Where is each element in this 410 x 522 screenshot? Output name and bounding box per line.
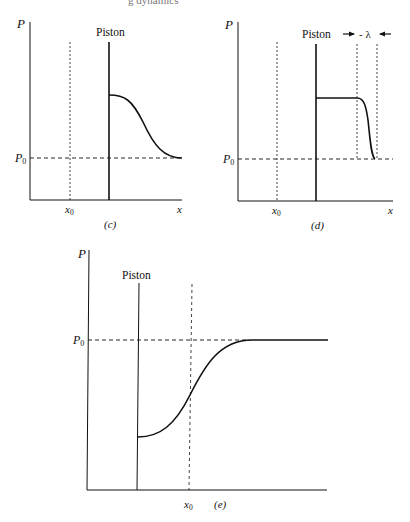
y-axis-label: P [16, 16, 25, 31]
x-axis-label: x [387, 204, 393, 216]
panel-e [87, 250, 328, 490]
panel-caption: (e) [214, 498, 227, 511]
piston-line [137, 283, 139, 490]
p0-label: P0 [222, 152, 234, 167]
p0-label: P0 [14, 151, 26, 166]
y-axis-label: P [224, 17, 233, 32]
panel-c [30, 22, 182, 200]
x0-reference-line [189, 284, 192, 490]
pressure-curve [316, 98, 375, 159]
diagram-canvas: P Piston P0 x0 x (c) P Piston - λ P0 x0 … [0, 0, 410, 522]
lambda-label: - λ [359, 28, 371, 40]
x0-label: x0 [64, 203, 74, 217]
x-axis-label: x [176, 203, 182, 215]
p0-label: P0 [72, 333, 84, 348]
panel-d [238, 22, 393, 201]
y-axis-label: P [77, 246, 86, 261]
pressure-curve [138, 340, 328, 437]
x0-label: x0 [183, 498, 193, 512]
panel-caption: (d) [311, 219, 324, 232]
y-axis [87, 250, 89, 490]
piston-label: Piston [96, 26, 125, 38]
x0-label: x0 [271, 204, 281, 218]
pressure-curve [109, 95, 182, 158]
panel-caption: (c) [104, 218, 117, 231]
piston-label: Piston [302, 28, 331, 40]
piston-label: Piston [122, 269, 151, 281]
